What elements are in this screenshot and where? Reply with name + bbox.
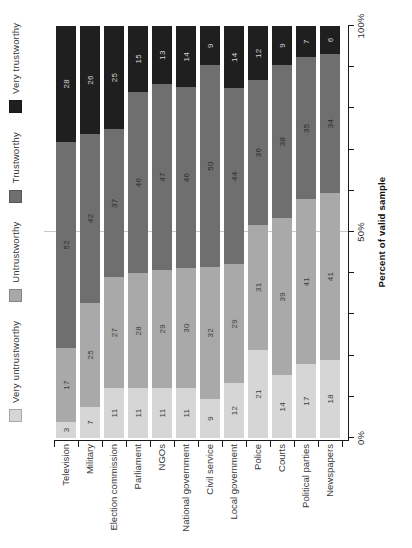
bar-segment-trustworthy: 44 bbox=[224, 88, 244, 264]
category-label-civil-service: Civil service bbox=[204, 444, 216, 546]
segment-value: 7 bbox=[302, 39, 311, 44]
category-label-election-commission: Election commission bbox=[108, 444, 120, 546]
bar-row-civil-service: 932509 bbox=[200, 26, 220, 438]
category-axis-tick bbox=[126, 441, 127, 447]
percent-axis-tick bbox=[349, 107, 354, 108]
segment-value: 9 bbox=[206, 43, 215, 48]
category-axis-tick bbox=[318, 441, 319, 447]
legend: Very untrustworthyUntrustworthyTrustwort… bbox=[9, 23, 22, 422]
category-axis-tick bbox=[102, 441, 103, 447]
percent-axis-tick bbox=[349, 396, 354, 397]
category-axis-tick bbox=[54, 441, 55, 447]
segment-value: 41 bbox=[302, 277, 311, 287]
segment-value: 37 bbox=[110, 198, 119, 208]
bar-segment-untrustworthy: 32 bbox=[200, 267, 220, 399]
bar-segment-very-untrustworthy: 7 bbox=[80, 407, 100, 438]
bar-segment-untrustworthy: 17 bbox=[56, 348, 76, 422]
legend-swatch-very-untrustworthy bbox=[9, 409, 22, 422]
bar-segment-trustworthy: 42 bbox=[80, 134, 100, 303]
bar-segment-very-untrustworthy: 11 bbox=[152, 388, 172, 438]
segment-value: 47 bbox=[158, 172, 167, 182]
legend-label: Untrustworthy bbox=[10, 222, 21, 283]
bar-segment-trustworthy: 38 bbox=[272, 65, 292, 218]
bar-segment-very-trustworthy: 7 bbox=[296, 26, 316, 57]
category-label-parliament: Parliament bbox=[132, 444, 144, 546]
segment-value: 46 bbox=[134, 178, 143, 188]
legend-item-untrustworthy: Untrustworthy bbox=[9, 222, 22, 302]
category-axis-tick bbox=[270, 441, 271, 447]
bar-segment-trustworthy: 46 bbox=[128, 92, 148, 274]
bar-segment-trustworthy: 50 bbox=[200, 65, 220, 266]
segment-value: 34 bbox=[326, 119, 335, 129]
segment-value: 11 bbox=[182, 409, 191, 418]
bar-segment-very-untrustworthy: 17 bbox=[296, 364, 316, 438]
rotated-chart-screenshot: Very untrustworthyUntrustworthyTrustwort… bbox=[0, 0, 412, 548]
legend-swatch-trustworthy bbox=[9, 190, 22, 203]
legend-swatch-untrustworthy bbox=[9, 289, 22, 302]
segment-value: 27 bbox=[110, 328, 119, 338]
segment-value: 15 bbox=[134, 54, 143, 64]
segment-value: 6 bbox=[326, 37, 335, 42]
percent-axis-title: Percent of valid sample bbox=[376, 26, 387, 438]
percent-axis-tick bbox=[349, 149, 354, 150]
bar-segment-very-untrustworthy: 11 bbox=[104, 388, 124, 438]
segment-value: 42 bbox=[86, 214, 95, 224]
segment-value: 35 bbox=[302, 124, 311, 134]
percent-axis-tick bbox=[349, 25, 354, 26]
legend-label: Trustworthy bbox=[10, 132, 21, 183]
category-label-ngos: NGOs bbox=[156, 444, 168, 546]
category-label-national-government: National government bbox=[180, 444, 192, 546]
segment-value: 52 bbox=[62, 240, 71, 250]
bar-segment-trustworthy: 46 bbox=[176, 87, 196, 267]
percent-axis-tick bbox=[349, 66, 354, 67]
bar-segment-untrustworthy: 39 bbox=[272, 218, 292, 375]
segment-value: 14 bbox=[182, 52, 191, 62]
category-label-television: Television bbox=[60, 444, 72, 546]
bar-segment-trustworthy: 37 bbox=[104, 129, 124, 277]
bar-row-courts: 1439389 bbox=[272, 26, 292, 438]
segment-value: 18 bbox=[326, 394, 335, 404]
category-axis-tick bbox=[246, 441, 247, 447]
category-axis-tick bbox=[342, 441, 343, 447]
category-label-local-government: Local government bbox=[228, 444, 240, 546]
bar-row-parliament: 11284615 bbox=[128, 26, 148, 438]
bar-segment-very-trustworthy: 14 bbox=[176, 26, 196, 87]
segment-value: 28 bbox=[134, 326, 143, 336]
bar-segment-untrustworthy: 41 bbox=[296, 199, 316, 364]
bar-row-television: 3175228 bbox=[56, 26, 76, 438]
bar-segment-very-untrustworthy: 3 bbox=[56, 422, 76, 438]
percent-axis-tick bbox=[349, 272, 354, 273]
segment-value: 11 bbox=[134, 409, 143, 418]
segment-value: 31 bbox=[254, 282, 263, 292]
percent-axis-tick bbox=[349, 313, 354, 314]
bar-segment-trustworthy: 36 bbox=[248, 80, 268, 224]
percent-axis-line bbox=[348, 25, 349, 441]
segment-value: 36 bbox=[254, 148, 263, 158]
bar-segment-very-trustworthy: 6 bbox=[320, 26, 340, 54]
percent-tick-label-100: 100% bbox=[355, 13, 366, 38]
segment-value: 44 bbox=[230, 172, 239, 182]
bar-segment-untrustworthy: 31 bbox=[248, 225, 268, 350]
bar-segment-very-untrustworthy: 9 bbox=[200, 399, 220, 438]
bar-segment-very-trustworthy: 26 bbox=[80, 26, 100, 134]
segment-value: 38 bbox=[278, 137, 287, 147]
percent-axis-tick bbox=[349, 437, 354, 438]
bar-row-police: 21313612 bbox=[248, 26, 268, 438]
legend-item-very-trustworthy: Very trustworthy bbox=[9, 23, 22, 113]
category-label-political-parties: Political parties bbox=[300, 444, 312, 546]
bar-segment-untrustworthy: 30 bbox=[176, 268, 196, 389]
segment-value: 25 bbox=[110, 73, 119, 83]
trust-stacked-bar-chart: Very untrustworthyUntrustworthyTrustwort… bbox=[0, 0, 412, 548]
bar-segment-trustworthy: 47 bbox=[152, 84, 172, 270]
percent-axis-tick bbox=[349, 231, 354, 232]
bar-segment-very-trustworthy: 12 bbox=[248, 26, 268, 80]
bar-segment-trustworthy: 34 bbox=[320, 54, 340, 194]
legend-label: Very trustworthy bbox=[10, 23, 21, 94]
category-label-military: Military bbox=[84, 444, 96, 546]
bar-segment-untrustworthy: 27 bbox=[104, 277, 124, 388]
legend-item-very-untrustworthy: Very untrustworthy bbox=[9, 321, 22, 422]
segment-value: 7 bbox=[86, 420, 95, 425]
category-label-police: Police bbox=[252, 444, 264, 546]
legend-swatch-very-trustworthy bbox=[9, 100, 22, 113]
bar-segment-very-trustworthy: 9 bbox=[200, 26, 220, 65]
